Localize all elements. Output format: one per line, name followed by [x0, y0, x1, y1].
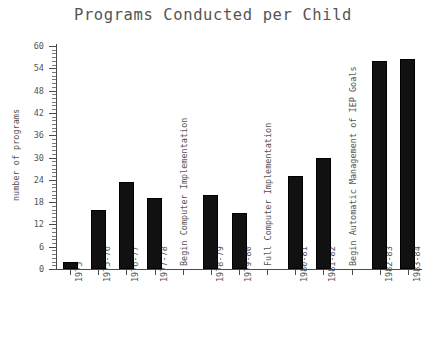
- y-axis-minor-tick: [52, 232, 56, 233]
- x-axis-tick: [380, 269, 381, 275]
- y-axis-minor-tick: [52, 213, 56, 214]
- y-axis-minor-tick: [52, 109, 56, 110]
- x-axis-tick: [408, 269, 409, 275]
- y-axis-minor-tick: [52, 206, 56, 207]
- y-axis-minor-tick: [52, 187, 56, 188]
- bar: [372, 61, 387, 269]
- bar: [400, 59, 415, 269]
- y-axis-minor-tick: [52, 228, 56, 229]
- y-axis-minor-tick: [52, 61, 56, 62]
- chart-annotation: Full Computer Implementation: [263, 123, 273, 266]
- y-axis-minor-tick: [52, 265, 56, 266]
- y-axis-tick-label: 60: [16, 42, 44, 50]
- y-axis-tick-label: 6: [16, 243, 44, 251]
- y-axis-minor-tick: [52, 250, 56, 251]
- y-axis-tick: [49, 269, 56, 270]
- y-axis-tick: [49, 247, 56, 248]
- y-axis-minor-tick: [52, 221, 56, 222]
- y-axis-minor-tick: [52, 105, 56, 106]
- bar: [316, 158, 331, 270]
- y-axis-tick: [49, 135, 56, 136]
- chart-annotation: Begin Computer Implementation: [179, 118, 189, 266]
- y-axis-minor-tick: [52, 79, 56, 80]
- y-axis-minor-tick: [52, 165, 56, 166]
- y-axis-minor-tick: [52, 236, 56, 237]
- y-axis-minor-tick: [52, 76, 56, 77]
- x-axis-tick: [267, 269, 268, 275]
- y-axis-minor-tick: [52, 172, 56, 173]
- y-axis-tick: [49, 180, 56, 181]
- y-axis-minor-tick: [52, 98, 56, 99]
- y-axis-minor-tick: [52, 139, 56, 140]
- y-axis-minor-tick: [52, 262, 56, 263]
- y-axis-minor-tick: [52, 198, 56, 199]
- y-axis-tick: [49, 113, 56, 114]
- y-axis-minor-tick: [52, 150, 56, 151]
- y-axis-minor-tick: [52, 243, 56, 244]
- y-axis-minor-tick: [52, 143, 56, 144]
- x-axis-tick: [295, 269, 296, 275]
- y-axis-tick-label: 54: [16, 64, 44, 72]
- y-axis-minor-tick: [52, 210, 56, 211]
- y-axis-minor-tick: [52, 254, 56, 255]
- y-axis-minor-tick: [52, 120, 56, 121]
- y-axis-minor-tick: [52, 191, 56, 192]
- y-axis-minor-tick: [52, 146, 56, 147]
- chart-annotation: Begin Automatic Management of IEP Goals: [348, 66, 358, 266]
- y-axis-minor-tick: [52, 102, 56, 103]
- bar: [63, 262, 78, 269]
- y-axis-minor-tick: [52, 169, 56, 170]
- y-axis-minor-tick: [52, 161, 56, 162]
- y-axis-minor-tick: [52, 184, 56, 185]
- x-axis-tick: [239, 269, 240, 275]
- y-axis-tick: [49, 46, 56, 47]
- x-axis-tick: [183, 269, 184, 275]
- y-axis-minor-tick: [52, 53, 56, 54]
- y-axis-minor-tick: [52, 83, 56, 84]
- y-axis-minor-tick: [52, 176, 56, 177]
- y-axis-minor-tick: [52, 131, 56, 132]
- y-axis-tick: [49, 158, 56, 159]
- y-axis-minor-tick: [52, 154, 56, 155]
- chart-container: Programs Conducted per Child 06121824303…: [0, 0, 426, 357]
- y-axis-tick: [49, 91, 56, 92]
- bar: [91, 210, 106, 269]
- bar: [232, 213, 247, 269]
- x-axis-tick: [126, 269, 127, 275]
- y-axis-tick-label: 0: [16, 265, 44, 273]
- bar: [203, 195, 218, 269]
- x-axis-tick: [352, 269, 353, 275]
- y-axis-tick: [49, 68, 56, 69]
- y-axis-minor-tick: [52, 195, 56, 196]
- y-axis-minor-tick: [52, 239, 56, 240]
- y-axis-title: number of programs: [11, 90, 21, 220]
- y-axis-minor-tick: [52, 57, 56, 58]
- x-axis-tick: [211, 269, 212, 275]
- x-axis-tick: [323, 269, 324, 275]
- y-axis-tick: [49, 224, 56, 225]
- y-axis-minor-tick: [52, 217, 56, 218]
- y-axis-tick: [49, 202, 56, 203]
- y-axis-minor-tick: [52, 94, 56, 95]
- y-axis-minor-tick: [52, 128, 56, 129]
- x-axis-tick: [98, 269, 99, 275]
- bar: [288, 176, 303, 269]
- y-axis-minor-tick: [52, 258, 56, 259]
- bar: [147, 198, 162, 269]
- y-axis-minor-tick: [52, 117, 56, 118]
- x-axis-tick: [155, 269, 156, 275]
- y-axis-minor-tick: [52, 65, 56, 66]
- y-axis-minor-tick: [52, 72, 56, 73]
- chart-title: Programs Conducted per Child: [0, 6, 426, 24]
- x-axis-tick: [70, 269, 71, 275]
- bar: [119, 182, 134, 269]
- y-axis-minor-tick: [52, 124, 56, 125]
- y-axis-minor-tick: [52, 50, 56, 51]
- y-axis-minor-tick: [52, 87, 56, 88]
- y-axis-tick-label: 12: [16, 220, 44, 228]
